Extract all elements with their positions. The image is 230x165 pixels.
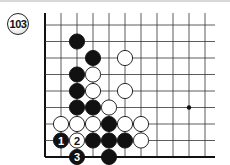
star-point-icon	[187, 105, 191, 109]
move-number-label: 2	[74, 135, 80, 147]
white-stone: 2	[69, 133, 84, 148]
black-stone	[69, 100, 84, 115]
stones: 123	[53, 34, 148, 165]
white-stone	[133, 116, 148, 131]
white-stone	[85, 116, 100, 131]
go-board: 123	[0, 0, 230, 165]
black-stone	[101, 116, 116, 131]
white-stone	[117, 116, 132, 131]
move-number-label: 3	[74, 151, 80, 163]
star-points	[187, 105, 191, 109]
black-stone	[101, 133, 116, 148]
black-stone	[69, 67, 84, 82]
black-stone	[69, 83, 84, 98]
black-stone	[85, 100, 100, 115]
white-stone	[85, 67, 100, 82]
move-number-label: 1	[58, 135, 64, 147]
white-stone	[53, 116, 68, 131]
black-stone: 3	[69, 149, 84, 164]
black-stone	[69, 34, 84, 49]
white-stone	[133, 133, 148, 148]
black-stone	[85, 133, 100, 148]
white-stone	[69, 116, 84, 131]
black-stone	[85, 50, 100, 65]
black-stone	[101, 149, 116, 164]
white-stone	[117, 83, 132, 98]
white-stone	[101, 100, 116, 115]
white-stone	[117, 50, 132, 65]
white-stone	[85, 83, 100, 98]
black-stone: 1	[53, 133, 68, 148]
black-stone	[117, 133, 132, 148]
